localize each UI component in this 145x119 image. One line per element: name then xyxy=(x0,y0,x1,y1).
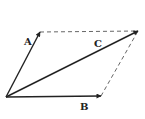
dashed-edge-a-to-c xyxy=(40,31,138,32)
vector-b-arrow xyxy=(6,96,101,97)
label-b: B xyxy=(80,101,88,112)
vector-addition-diagram: A B C xyxy=(0,0,145,119)
label-c: C xyxy=(94,38,102,49)
label-a: A xyxy=(23,36,32,47)
vector-a-arrow xyxy=(6,32,40,97)
